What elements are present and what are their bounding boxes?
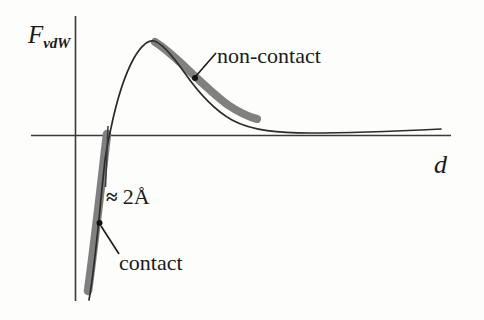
- y-axis-label-subscript: vdW: [43, 35, 70, 51]
- vdw-force-figure: FvdW d non-contact contact ≈ 2Å: [0, 0, 484, 320]
- x-axis-label: d: [434, 152, 447, 178]
- gap-distance-label: ≈ 2Å: [106, 186, 150, 208]
- y-axis-label-main: F: [28, 21, 43, 48]
- contact-label: contact: [119, 252, 183, 274]
- non-contact-marker-dot: [192, 75, 198, 81]
- gap-distance-value: 2Å: [123, 184, 150, 209]
- non-contact-leader-line: [196, 53, 216, 76]
- y-axis-label: FvdW: [28, 22, 70, 51]
- approx-sign: ≈: [106, 185, 123, 209]
- non-contact-label: non-contact: [217, 45, 321, 67]
- contact-highlight-band: [88, 134, 107, 291]
- contact-marker-dot: [97, 220, 103, 226]
- contact-leader-line: [101, 226, 119, 254]
